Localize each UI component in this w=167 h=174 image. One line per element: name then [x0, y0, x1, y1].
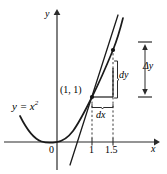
y-axis-label: y — [45, 9, 49, 19]
delta-y-label: Δy — [143, 61, 153, 71]
differentials-figure: y = x2 (1, 1) dy dx Δy y x 0 1 1.5 — [0, 0, 167, 174]
curve-equation-label: y = x2 — [12, 100, 38, 112]
dx-label: dx — [96, 110, 105, 120]
dy-label: dy — [119, 70, 128, 80]
x-tick-label-1: 1 — [89, 145, 94, 155]
axes-group — [4, 9, 160, 170]
delta-y-arrowhead-up — [142, 44, 148, 50]
curve-point-marker — [111, 48, 115, 52]
y-axis-arrowhead — [54, 9, 61, 15]
x-axis-label: x — [151, 144, 155, 154]
parabola-curve — [20, 18, 123, 143]
differential-triangle — [92, 68, 113, 97]
curve-equation-base: y = x — [12, 100, 35, 112]
delta-y-arrowhead-down — [142, 89, 148, 95]
curve-equation-exponent: 2 — [35, 99, 39, 107]
tangent-point-label: (1, 1) — [60, 85, 82, 95]
x-tick-label-1-5: 1.5 — [105, 145, 118, 155]
x-tick-label-0: 0 — [49, 145, 54, 155]
figure-canvas — [0, 0, 167, 174]
